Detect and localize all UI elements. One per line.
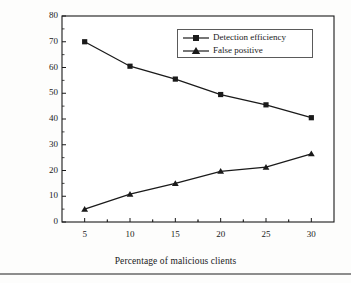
legend-item-detection-efficiency: Detection efficiency [182,31,286,44]
legend: Detection efficiency False positive [177,29,313,58]
bottom-divider [0,273,351,275]
y-tick-label: 20 [36,165,58,175]
legend-marker-triangle-icon [182,45,210,57]
y-tick-label: 40 [36,113,58,123]
x-axis-title: Percentage of malicious clients [0,256,351,266]
x-tick-label: 20 [208,229,234,239]
figure-canvas: Detection efficiency and false positive … [0,0,351,283]
legend-label-detection-efficiency: Detection efficiency [213,31,286,44]
x-tick-label: 15 [162,229,188,239]
y-tick-label: 60 [36,62,58,72]
x-tick-label: 5 [72,229,98,239]
legend-item-false-positive: False positive [182,44,263,57]
legend-label-false-positive: False positive [213,44,263,57]
y-tick-label: 50 [36,87,58,97]
x-tick-label: 30 [298,229,324,239]
y-tick-label: 30 [36,139,58,149]
y-tick-label: 80 [36,10,58,20]
legend-marker-square-icon [182,32,210,44]
x-tick-label: 25 [253,229,279,239]
x-tick-label: 10 [117,229,143,239]
y-tick-label: 0 [36,216,58,226]
y-tick-label: 70 [36,36,58,46]
y-tick-label: 10 [36,190,58,200]
